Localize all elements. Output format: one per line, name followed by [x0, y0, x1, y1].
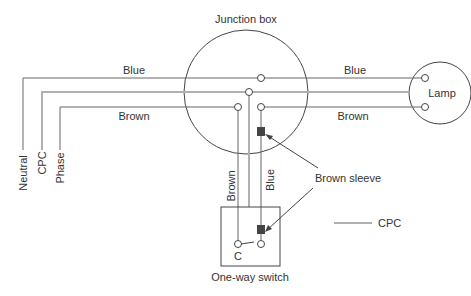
blue-vertical-label: Blue	[264, 169, 276, 191]
legend-cpc-label: CPC	[378, 217, 401, 229]
sleeve-arrow-upper	[268, 136, 318, 168]
blue-label-right: Blue	[344, 64, 366, 76]
lamp-terminal-neutral	[422, 75, 429, 82]
switch-terminal-l1	[258, 241, 265, 248]
brown-sleeve-label: Brown sleeve	[315, 172, 381, 184]
neutral-label: Neutral	[17, 155, 29, 190]
junction-terminal-cpc	[246, 89, 253, 96]
junction-terminal-switched	[258, 104, 265, 111]
cpc-vertical-label: CPC	[36, 151, 48, 174]
blue-label-left: Blue	[123, 64, 145, 76]
switch-label: One-way switch	[211, 271, 289, 283]
brown-sleeve-junction	[257, 127, 265, 136]
lamp-label: Lamp	[428, 87, 456, 99]
junction-terminal-neutral	[258, 75, 265, 82]
brown-label-left: Brown	[118, 110, 149, 122]
switch-common-label: C	[234, 250, 242, 262]
one-way-switch-box	[221, 207, 280, 266]
brown-vertical-label: Brown	[225, 170, 237, 201]
switch-lever	[241, 242, 254, 244]
brown-label-right: Brown	[337, 110, 368, 122]
junction-box-title: Junction box	[215, 13, 277, 25]
switch-terminal-common	[235, 241, 242, 248]
junction-terminal-phase	[235, 104, 242, 111]
lamp-terminal-switched	[422, 104, 429, 111]
phase-label: Phase	[54, 152, 66, 183]
wiring-diagram: Junction box Lamp Blue Blue Brown Brown …	[0, 0, 471, 296]
brown-sleeve-switch	[257, 225, 265, 234]
arrowhead-icon	[265, 134, 273, 140]
sleeve-arrow-lower	[267, 188, 313, 230]
